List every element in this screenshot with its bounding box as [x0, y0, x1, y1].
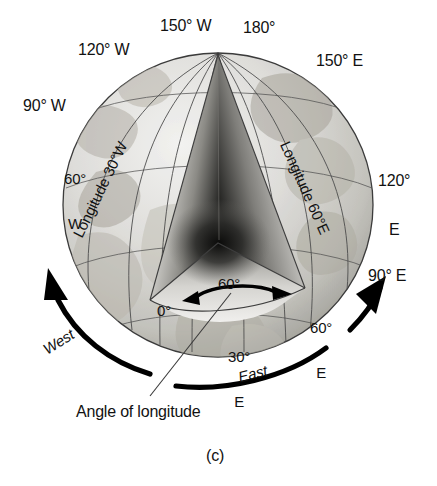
label-120-e-direction: E: [378, 222, 410, 238]
figure-letter: (c): [206, 448, 224, 464]
label-60-w-value: 60°: [64, 171, 86, 186]
label-wedge-angle: 60°: [218, 276, 240, 291]
label-30-e-direction: E: [228, 394, 250, 409]
label-150-e: 150° E: [316, 53, 363, 69]
label-180: 180°: [243, 20, 275, 36]
label-30-e-value: 30°: [228, 349, 250, 364]
label-150-w: 150° W: [160, 18, 211, 34]
label-60-e-value: 60°: [310, 320, 332, 335]
label-120-e-value: 120°: [378, 173, 410, 189]
label-0-degrees: 0°: [157, 303, 171, 318]
label-90-e: 90° E: [368, 268, 406, 284]
label-120-w: 120° W: [78, 42, 129, 58]
west-arrowhead: [44, 268, 68, 300]
label-120-e: 120° E: [378, 140, 410, 271]
label-60-e: 60° E: [310, 289, 332, 411]
label-60-w: 60° W: [64, 140, 86, 262]
longitude-globe-figure: 150° W 180° 120° W 150° E 90° W 120° E 9…: [0, 0, 437, 486]
annotation-angle-of-longitude: Angle of longitude: [76, 404, 201, 420]
label-60-e-direction: E: [310, 365, 332, 380]
label-90-w: 90° W: [23, 98, 66, 114]
